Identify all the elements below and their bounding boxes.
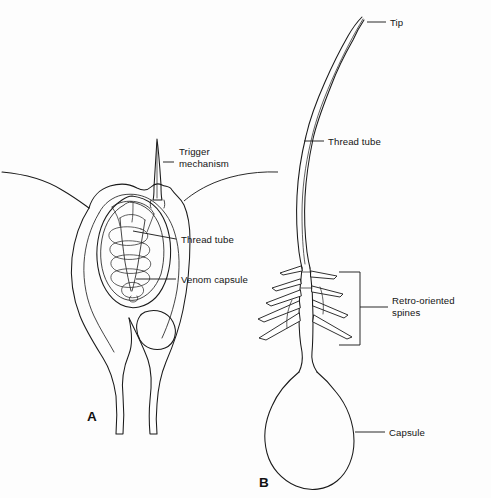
label-tip: Tip bbox=[390, 17, 403, 28]
label-capsule: Capsule bbox=[389, 427, 425, 438]
label-spines-line2: spines bbox=[392, 307, 420, 318]
thread-coil-end bbox=[129, 296, 138, 302]
diagram-canvas: Trigger mechanism Thread tube Venom caps… bbox=[0, 0, 491, 498]
label-thread-tube-b: Thread tube bbox=[328, 136, 381, 147]
label-venom-capsule: Venom capsule bbox=[181, 274, 248, 285]
operculum-fold-right bbox=[147, 214, 154, 232]
nematocyst-figure: Trigger mechanism Thread tube Venom caps… bbox=[0, 0, 491, 498]
label-trigger-line1: Trigger bbox=[179, 146, 210, 157]
label-thread-tube-a: Thread tube bbox=[181, 234, 234, 245]
venom-capsule-outer-wall bbox=[97, 196, 171, 308]
thread-coil-4 bbox=[111, 269, 150, 288]
retro-oriented-spines-left bbox=[258, 266, 302, 340]
panel-letter-b: B bbox=[259, 475, 269, 490]
epithelium-line-left bbox=[2, 172, 89, 208]
retro-oriented-spines-right bbox=[311, 271, 352, 339]
leader-cell-membrane bbox=[184, 172, 278, 201]
panel-letter-a: A bbox=[87, 409, 97, 424]
panel-b-group: Tip Thread tube Retro-oriented spines Ca… bbox=[258, 17, 455, 490]
label-trigger-line2: mechanism bbox=[179, 158, 229, 169]
trigger-mechanism-spike bbox=[153, 139, 162, 200]
spine-right-1 bbox=[311, 271, 337, 279]
spine-left-1 bbox=[280, 266, 302, 275]
trigger-base-collar-right bbox=[164, 200, 165, 208]
coiled-thread-tube bbox=[109, 227, 151, 302]
operculum-fold-center bbox=[132, 203, 133, 222]
trigger-base-collar bbox=[150, 200, 151, 208]
capsule-outline bbox=[265, 372, 354, 489]
spine-right-2 bbox=[312, 286, 343, 297]
panel-a-group: Trigger mechanism Thread tube Venom caps… bbox=[2, 139, 278, 434]
spine-right-3 bbox=[313, 300, 348, 318]
spine-left-2 bbox=[272, 279, 301, 291]
label-spines-line1: Retro-oriented bbox=[392, 295, 455, 306]
nucleus-outline bbox=[137, 310, 176, 349]
operculum-fold-left bbox=[112, 207, 120, 226]
spine-right-4 bbox=[313, 315, 352, 339]
